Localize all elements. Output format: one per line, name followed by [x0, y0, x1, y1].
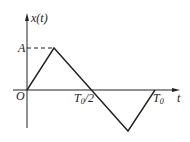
x-axis-label: t	[177, 92, 180, 104]
period-base: T	[153, 91, 160, 105]
y-axis-arrow-icon	[25, 13, 29, 21]
origin-label: O	[16, 90, 25, 102]
amplitude-label: A	[18, 42, 25, 54]
half-period-suffix: /2	[85, 91, 94, 105]
period-sub: 0	[160, 97, 164, 106]
half-period-base: T	[74, 91, 81, 105]
period-label: T0	[153, 92, 164, 106]
diagram-canvas	[0, 0, 190, 142]
y-axis-label: x(t)	[31, 12, 48, 24]
half-period-label: T0/2	[74, 92, 94, 106]
waveform-diagram: x(t) t O A T0/2 T0	[0, 0, 190, 142]
